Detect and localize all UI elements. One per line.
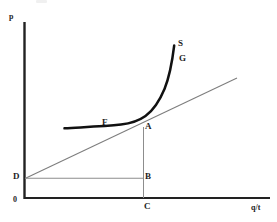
x-axis-label: q/t bbox=[251, 204, 260, 212]
supply-curve-label-f: F bbox=[102, 118, 108, 127]
point-label-a: A bbox=[145, 122, 152, 131]
supply-curve-diagram: p q/t 0 S G F A D B C bbox=[0, 0, 277, 222]
point-label-c: C bbox=[144, 202, 151, 211]
point-label-b: B bbox=[145, 172, 151, 181]
supply-curve-label-g: G bbox=[179, 54, 186, 63]
supply-curve-label-s: S bbox=[178, 39, 183, 48]
ray-from-d-line bbox=[25, 78, 237, 179]
origin-label: 0 bbox=[13, 196, 17, 204]
y-axis-label: p bbox=[9, 13, 13, 21]
plot-canvas bbox=[0, 0, 277, 222]
point-label-d: D bbox=[13, 172, 20, 181]
